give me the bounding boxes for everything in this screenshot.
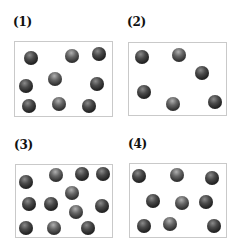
panel-label-4: (4) [128,138,147,150]
particle-icon [132,169,146,183]
particle-icon [172,48,186,62]
particle-icon [205,171,219,185]
particle-icon [96,167,110,181]
particle-icon [92,47,106,61]
particle-icon [19,221,33,235]
particle-icon [146,194,160,208]
particle-icon [19,175,33,189]
particle-icon [44,197,58,211]
particle-icon [65,186,79,200]
particle-icon [195,66,209,80]
particle-icon [137,85,151,99]
particle-icon [170,168,184,182]
particle-icon [19,79,33,93]
particle-icon [163,217,177,231]
particle-icon [208,95,222,109]
particle-icon [207,219,221,233]
particle-icon [90,77,104,91]
particle-icon [75,167,89,181]
particle-icon [81,221,95,235]
panel-label-2: (2) [127,16,146,28]
particle-icon [49,168,63,182]
particle-icon [82,99,96,113]
particle-icon [24,51,38,65]
particle-icon [175,196,189,210]
particle-icon [135,50,149,64]
particle-icon [199,195,213,209]
particle-icon [52,97,66,111]
panel-label-1: (1) [13,16,32,28]
particle-icon [137,219,151,233]
particle-icon [166,97,180,111]
particle-icon [65,49,79,63]
particle-icon [22,197,36,211]
particle-icon [95,199,109,213]
particle-icon [47,221,61,235]
panel-label-3: (3) [14,139,33,151]
particle-icon [69,205,83,219]
particle-icon [48,72,62,86]
particle-icon [22,99,36,113]
